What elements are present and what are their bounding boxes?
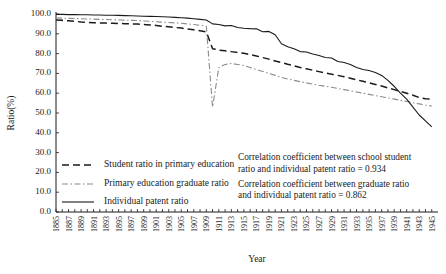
series-line	[56, 18, 432, 107]
x-tick-label: 1909	[202, 216, 211, 232]
x-tick-label: 1927	[315, 216, 324, 232]
x-tick-label: 1945	[428, 216, 437, 232]
x-tick-label: 1943	[415, 216, 424, 232]
x-tick-label: 1901	[152, 216, 161, 232]
x-tick-label: 1941	[403, 216, 412, 232]
x-tick-label: 1913	[227, 216, 236, 232]
x-tick-label: 1917	[252, 216, 261, 232]
x-tick-label: 1895	[115, 216, 124, 232]
x-tick-label: 1893	[102, 216, 111, 232]
y-axis-title: Ratio(%)	[6, 96, 17, 131]
x-tick-label: 1921	[277, 216, 286, 232]
correlation-annotations: Correlation coefficient between school s…	[238, 152, 412, 200]
y-tick-label: 10.0	[35, 186, 51, 196]
annotation-line-3: Correlation coefficient between graduate…	[238, 179, 410, 189]
legend-label-2: Primary education graduate ratio	[104, 178, 229, 188]
x-tick-label: 1911	[215, 216, 224, 232]
y-tick-label: 70.0	[35, 67, 51, 77]
y-tick-label: 60.0	[35, 87, 51, 97]
legend-label-3: Individual patent ratio	[104, 196, 189, 206]
x-tick-label: 1897	[127, 216, 136, 232]
x-tick-label: 1885	[52, 216, 61, 232]
x-tick-label: 1907	[190, 216, 199, 232]
annotation-line-4: and individual patent ratio = 0.862	[238, 190, 367, 200]
y-tick-label: 100.0	[31, 8, 52, 18]
x-tick-label: 1889	[77, 216, 86, 232]
x-tick-label: 1935	[365, 216, 374, 232]
y-tick-label: 90.0	[35, 28, 51, 38]
x-tick-label: 1905	[177, 216, 186, 232]
y-tick-label: 50.0	[35, 107, 51, 117]
y-tick-label: 0.0	[40, 206, 52, 216]
y-tick-label: 40.0	[35, 127, 51, 137]
legend-label-1: Student ratio in primary education	[104, 159, 235, 169]
x-tick-label: 1899	[140, 216, 149, 232]
x-tick-label: 1915	[240, 216, 249, 232]
x-tick-label: 1925	[302, 216, 311, 232]
annotation-line-1: Correlation coefficient between school s…	[238, 152, 412, 162]
y-tick-label: 20.0	[35, 166, 51, 176]
x-tick-label: 1939	[390, 216, 399, 232]
y-tick-label: 30.0	[35, 147, 51, 157]
data-series-layer	[56, 14, 432, 126]
series-line	[56, 20, 432, 99]
chart-legend: Student ratio in primary educationPrimar…	[62, 159, 235, 206]
x-tick-label: 1937	[378, 216, 387, 232]
chart-container: 0.010.020.030.040.050.060.070.080.090.01…	[0, 0, 446, 274]
x-tick-label: 1903	[165, 216, 174, 232]
x-tick-label: 1931	[340, 216, 349, 232]
x-tick-label: 1887	[65, 216, 74, 232]
x-axis-title: Year	[248, 254, 266, 264]
annotation-line-2: ratio and individual patent ratio = 0.93…	[238, 164, 386, 174]
x-tick-label: 1933	[353, 216, 362, 232]
x-tick-label: 1929	[328, 216, 337, 232]
x-tick-label: 1891	[90, 216, 99, 232]
series-line	[56, 14, 432, 126]
x-tick-label: 1923	[290, 216, 299, 232]
y-tick-label: 80.0	[35, 48, 51, 58]
line-chart-svg: 0.010.020.030.040.050.060.070.080.090.01…	[0, 0, 446, 274]
y-axis-ticks: 0.010.020.030.040.050.060.070.080.090.01…	[31, 8, 59, 216]
x-tick-label: 1919	[265, 216, 274, 232]
